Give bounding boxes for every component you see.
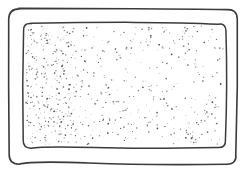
stipple-dots [25, 25, 223, 145]
inner-panel [23, 22, 227, 148]
outer-frame [9, 8, 238, 164]
stippled-tray-illustration [0, 0, 244, 171]
